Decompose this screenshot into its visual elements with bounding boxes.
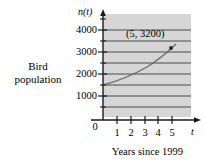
y-tick-label-2000: 2000	[57, 68, 97, 79]
x-tick-label-1: 1	[111, 127, 123, 138]
x-axis-symbol-label: t	[191, 127, 194, 137]
bird-population-figure: n(t) t Bird population Years since 1999 …	[0, 0, 205, 164]
x-tick-label-3: 3	[139, 127, 151, 138]
y-tick-label-1000: 1000	[57, 90, 97, 101]
data-point-marker	[169, 46, 173, 50]
x-tick-label-4: 4	[152, 127, 164, 138]
data-point-annotation: (5, 3200)	[126, 28, 165, 39]
y-tick-label-3000: 3000	[57, 46, 97, 57]
y-tick-label-4000: 4000	[57, 24, 97, 35]
y-axis-arrow	[100, 9, 106, 16]
y-axis-symbol-label: n(t)	[78, 7, 92, 17]
x-axis-arrow	[194, 117, 201, 123]
x-tick-label-2: 2	[125, 127, 137, 138]
x-tick-label-5: 5	[166, 127, 178, 138]
x-axis-caption: Years since 1999	[90, 146, 205, 158]
x-tick-label-0: 0	[89, 121, 101, 132]
